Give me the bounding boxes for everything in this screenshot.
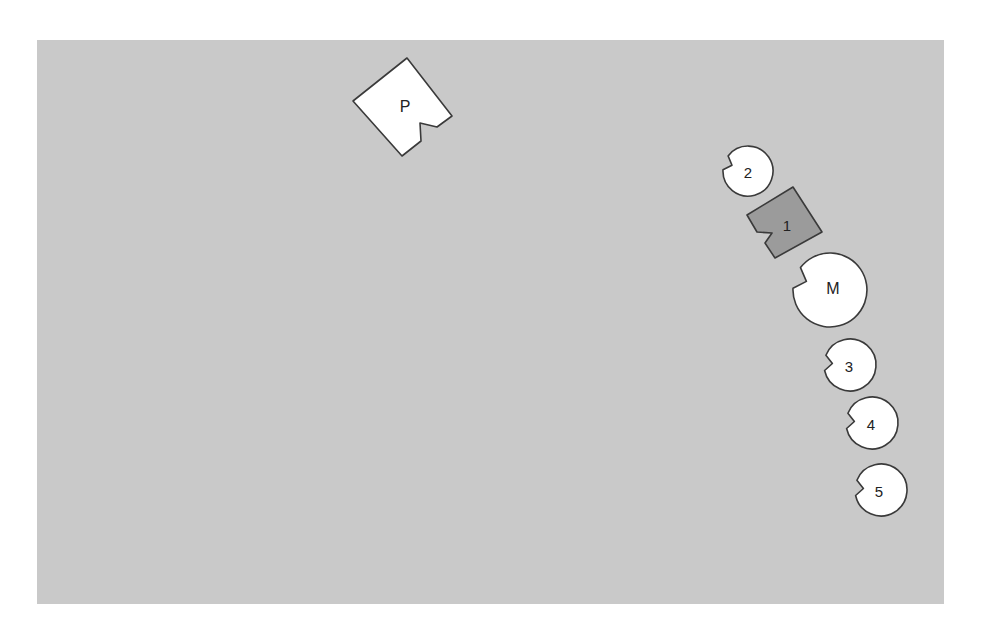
shape-m-label: M [826,280,839,297]
shape-4-notched-circle: 4 [847,397,898,449]
shape-2-notched-circle: 2 [723,146,773,196]
shape-m-notched-circle: M [793,253,867,327]
shape-3-label: 3 [845,358,853,375]
diagram-canvas: P 2 1 M 3 4 5 [0,0,988,639]
shape-5-label: 5 [875,483,883,500]
shape-2-label: 2 [744,164,752,181]
shape-p-notched-square: P [353,58,452,156]
shape-1-notched-square: 1 [747,187,822,258]
shape-5-notched-circle: 5 [856,464,907,516]
shape-p-label: P [400,98,411,115]
shape-4-label: 4 [867,416,875,433]
diagram-svg: P 2 1 M 3 4 5 [0,0,988,639]
shape-3-notched-circle: 3 [825,339,876,391]
shape-1-label: 1 [783,217,791,234]
